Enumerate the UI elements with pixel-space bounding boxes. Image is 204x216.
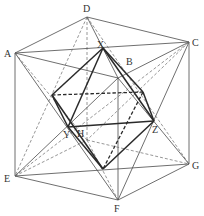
label-Z: Z: [152, 124, 158, 135]
label-X: X: [97, 39, 105, 50]
label-G: G: [192, 160, 199, 171]
label-D: D: [83, 3, 90, 14]
label-F: F: [114, 203, 120, 214]
label-H: H: [77, 128, 84, 139]
cube-octahedron-diagram: D C A E F G X B Y H Z: [0, 0, 204, 216]
diagram-canvas: D C A E F G X B Y H Z: [0, 0, 204, 216]
label-E: E: [4, 173, 10, 184]
label-C: C: [192, 37, 199, 48]
label-B: B: [126, 56, 133, 67]
label-Y: Y: [63, 129, 70, 140]
label-A: A: [4, 48, 12, 59]
vertex-labels: D C A E F G X B Y H Z: [4, 3, 199, 214]
